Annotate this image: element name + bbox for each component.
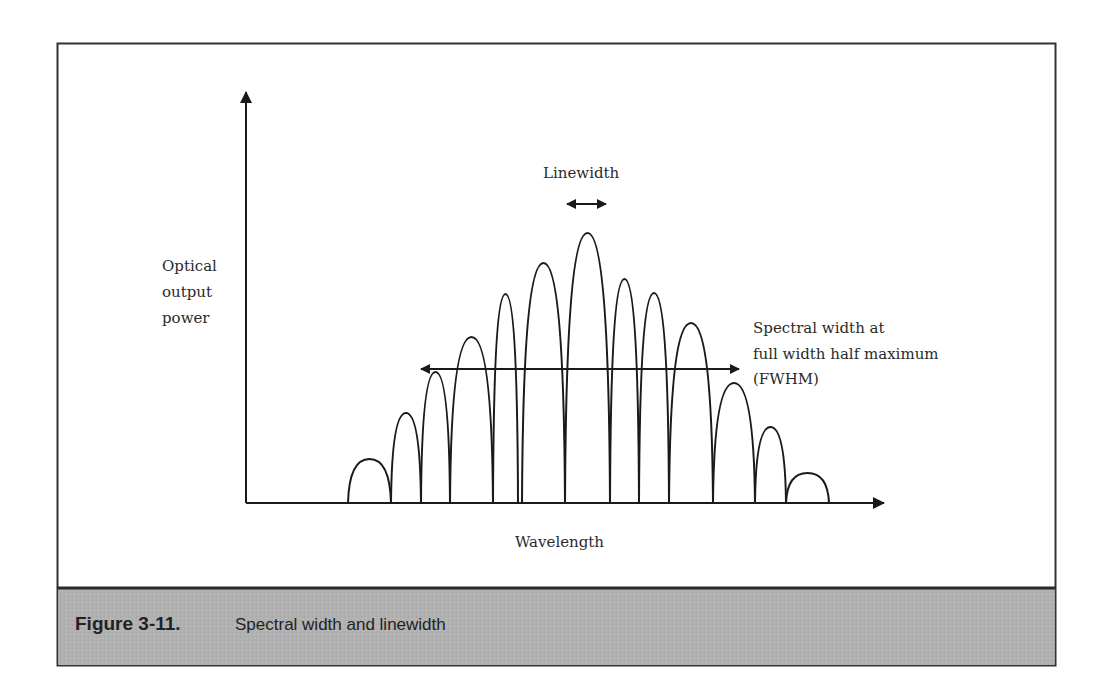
figure-caption: Spectral width and linewidth xyxy=(235,615,446,634)
figure-container: Figure 3-11. Spectral width and linewidt… xyxy=(0,0,1108,688)
svg-text:Spectral width at: Spectral width at xyxy=(753,319,885,337)
figure-svg: Figure 3-11. Spectral width and linewidt… xyxy=(0,0,1108,688)
svg-text:(FWHM): (FWHM) xyxy=(753,370,819,388)
linewidth-label: Linewidth xyxy=(543,164,620,182)
svg-text:power: power xyxy=(162,309,210,327)
y-axis-label: Optical output power xyxy=(162,257,217,327)
caption-bar xyxy=(59,589,1055,665)
svg-text:full width half maximum: full width half maximum xyxy=(753,345,939,363)
svg-text:output: output xyxy=(162,283,212,301)
x-axis-label: Wavelength xyxy=(515,533,604,551)
svg-text:Optical: Optical xyxy=(162,257,217,275)
figure-number: Figure 3-11. xyxy=(75,613,181,634)
